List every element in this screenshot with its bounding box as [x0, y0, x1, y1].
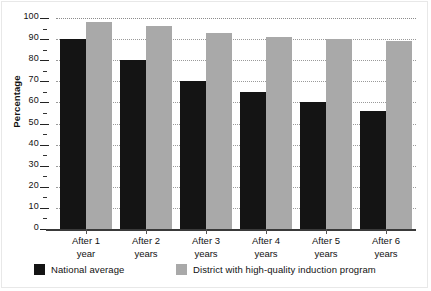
y-tick-mark-major [40, 208, 49, 209]
y-tick-mark-minor [43, 29, 47, 30]
x-axis-line [46, 229, 416, 231]
y-tick-label: 100 [11, 11, 39, 21]
x-category-label-line1: After 6 [372, 235, 400, 246]
x-category-label-line1: After 3 [192, 235, 220, 246]
bar-national-average [180, 81, 206, 229]
y-tick-mark-major [40, 187, 49, 188]
x-category-label-line2: years [350, 248, 422, 261]
legend-swatch-district-induction [176, 264, 187, 275]
y-tick-mark-minor [43, 218, 47, 219]
bar-national-average [360, 111, 386, 229]
bar-group [176, 18, 236, 229]
y-axis-labels: 0102030405060708090100 [0, 0, 56, 291]
y-tick-label: 10 [11, 201, 39, 211]
legend-label-national-average: National average [51, 264, 124, 275]
x-category-label-line1: After 2 [132, 235, 160, 246]
y-tick-label: 30 [11, 159, 39, 169]
y-tick-mark-major [40, 81, 49, 82]
y-tick-mark-major [40, 39, 49, 40]
bar-group [116, 18, 176, 229]
y-tick-mark-major [40, 102, 49, 103]
bar-district-induction [86, 22, 112, 229]
x-category-label-line1: After 1 [72, 235, 100, 246]
y-tick-mark-minor [43, 176, 47, 177]
bar-national-average [120, 60, 146, 229]
y-tick-mark-minor [43, 197, 47, 198]
bar-district-induction [146, 26, 172, 229]
x-tick-mark [326, 229, 327, 234]
bar-chart: Percentage 0102030405060708090100 After … [0, 0, 431, 291]
y-tick-label: 20 [11, 180, 39, 190]
y-tick-label: 0 [11, 222, 39, 232]
y-tick-mark-major [40, 124, 49, 125]
x-tick-mark [146, 229, 147, 234]
x-category-label: After 6years [350, 235, 422, 260]
y-tick-label: 50 [11, 117, 39, 127]
bar-group [56, 18, 116, 229]
y-tick-label: 60 [11, 95, 39, 105]
y-tick-mark-minor [43, 92, 47, 93]
bar-district-induction [386, 41, 412, 229]
y-tick-label: 80 [11, 53, 39, 63]
chart-legend: National average District with high-qual… [34, 264, 424, 280]
y-tick-mark-minor [43, 113, 47, 114]
y-tick-mark-minor [43, 71, 47, 72]
bar-district-induction [206, 33, 232, 229]
bar-national-average [60, 39, 86, 229]
legend-item-district-induction: District with high-quality induction pro… [176, 264, 376, 275]
bar-group [296, 18, 356, 229]
legend-item-national-average: National average [34, 264, 124, 275]
x-category-label-line1: After 4 [252, 235, 280, 246]
bar-national-average [240, 92, 266, 229]
y-tick-mark-major [40, 145, 49, 146]
x-tick-mark [206, 229, 207, 234]
y-tick-mark-minor [43, 50, 47, 51]
x-category-label-line1: After 5 [312, 235, 340, 246]
y-tick-mark-minor [43, 134, 47, 135]
bar-district-induction [326, 39, 352, 229]
y-tick-label: 90 [11, 32, 39, 42]
y-tick-label: 40 [11, 138, 39, 148]
x-tick-mark [86, 229, 87, 234]
y-tick-mark-major [40, 18, 49, 19]
legend-swatch-national-average [34, 264, 45, 275]
bar-district-induction [266, 37, 292, 229]
legend-label-district-induction: District with high-quality induction pro… [193, 264, 376, 275]
y-tick-mark-major [40, 60, 49, 61]
bar-group [356, 18, 416, 229]
bar-group [236, 18, 296, 229]
bar-national-average [300, 102, 326, 229]
y-tick-label: 70 [11, 74, 39, 84]
x-tick-mark [266, 229, 267, 234]
x-tick-mark [386, 229, 387, 234]
y-tick-mark-minor [43, 155, 47, 156]
y-tick-mark-major [40, 166, 49, 167]
bar-groups [56, 18, 416, 229]
